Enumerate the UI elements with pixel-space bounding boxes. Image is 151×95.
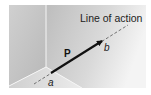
force-label-p: P [64,48,71,59]
diagram-canvas: Line of action P b a [0,0,151,95]
line-of-action-diagram: Line of action P b a [0,0,151,95]
point-a-label: a [48,77,54,88]
line-of-action-label: Line of action [80,12,143,24]
point-b-label: b [104,42,110,53]
